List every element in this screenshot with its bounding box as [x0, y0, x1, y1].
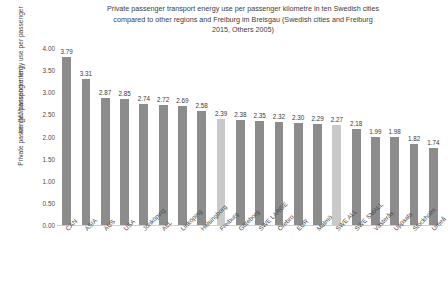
bar-value-label: 2.29 [311, 115, 323, 122]
bar-value-label: 1.82 [408, 135, 420, 142]
plot-area: 3.793.312.872.852.742.722.692.582.392.38… [57, 48, 443, 225]
bar-value-label: 2.69 [176, 97, 188, 104]
bar-can[interactable] [62, 48, 71, 225]
y-axis-tick-4.00: 4.00 [28, 45, 55, 52]
bar-freiburg[interactable] [217, 48, 226, 225]
bar-rect [294, 123, 303, 225]
bar-rect [62, 57, 71, 225]
bar-usa[interactable] [120, 48, 129, 225]
bar-rect [178, 106, 187, 225]
bar-value-label: 2.30 [292, 114, 304, 121]
x-axis-line [57, 225, 443, 226]
bar-value-label: 2.58 [196, 102, 208, 109]
y-axis-tick-0.00: 0.00 [28, 222, 55, 229]
bar-value-label: 3.31 [80, 70, 92, 77]
bar-uppsala[interactable] [390, 48, 399, 225]
y-axis-tick-3.00: 3.00 [28, 89, 55, 96]
bar-value-label: 2.27 [331, 116, 343, 123]
bar-rect [120, 99, 129, 225]
bar-swe-all[interactable] [332, 48, 341, 225]
bar-eur[interactable] [294, 48, 303, 225]
x-axis-tick-labels: CANASIAAUSUSAJönköpingALLLinköpingHelsin… [57, 227, 443, 285]
y-axis-tick-labels: 0.000.501.001.502.002.503.003.504.00 [28, 44, 55, 229]
bar-chart: Private passenger transport energy use p… [0, 0, 448, 287]
y-axis-tick-2.00: 2.00 [28, 133, 55, 140]
bar-value-label: 1.74 [427, 139, 439, 146]
bar-swe-large[interactable] [255, 48, 264, 225]
bar-value-label: 2.18 [350, 120, 362, 127]
bar-aus[interactable] [101, 48, 110, 225]
y-axis-tick-1.50: 1.50 [28, 155, 55, 162]
bar-rect [236, 120, 245, 225]
y-axis-tick-0.50: 0.50 [28, 199, 55, 206]
bar-linköping[interactable] [178, 48, 187, 225]
bar-jönköping[interactable] [139, 48, 148, 225]
y-axis-tick-3.50: 3.50 [28, 67, 55, 74]
bar-rect [101, 98, 110, 225]
bar-value-label: 1.98 [389, 128, 401, 135]
bar-value-label: 2.87 [99, 89, 111, 96]
bar-rect [313, 124, 322, 225]
chart-title-line-2: compared to other regions and Freiburg i… [44, 15, 442, 26]
bar-malmö[interactable] [313, 48, 322, 225]
bar-value-label: 1.99 [369, 128, 381, 135]
bar-value-label: 2.85 [118, 90, 130, 97]
bar-all[interactable] [159, 48, 168, 225]
bar-västerås[interactable] [371, 48, 380, 225]
chart-title-line-3: 2015, Others 2005) [44, 25, 442, 36]
bar-value-label: 2.32 [273, 113, 285, 120]
bar-helsingborg[interactable] [197, 48, 206, 225]
bar-göteborg[interactable] [236, 48, 245, 225]
bar-value-label: 2.35 [254, 112, 266, 119]
bar-value-label: 2.72 [157, 96, 169, 103]
bar-rect [139, 104, 148, 225]
chart-title: Private passenger transport energy use p… [44, 4, 442, 36]
y-axis-title-line-2: km (MJ/passenger km) [17, 66, 25, 133]
bar-swe-small[interactable] [352, 48, 361, 225]
bar-value-label: 2.74 [138, 95, 150, 102]
bar-umeå[interactable] [429, 48, 438, 225]
y-axis-tick-1.00: 1.00 [28, 177, 55, 184]
bar-value-label: 3.79 [61, 48, 73, 55]
chart-title-line-1: Private passenger transport energy use p… [44, 4, 442, 15]
bar-value-label: 2.38 [234, 111, 246, 118]
y-axis-tick-2.50: 2.50 [28, 111, 55, 118]
bar-rect [82, 79, 91, 225]
y-axis-title-secondary: km (MJ/passenger km) [13, 5, 29, 195]
bar-rect [332, 125, 341, 225]
bar-örebro[interactable] [275, 48, 284, 225]
bar-value-label: 2.39 [215, 110, 227, 117]
